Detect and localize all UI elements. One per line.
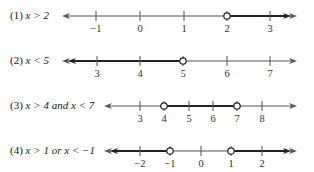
row-1-tick-label: 1 — [181, 23, 186, 34]
row-3-open-circle-icon — [161, 103, 167, 109]
row-3-tick-label: 6 — [210, 113, 215, 124]
row-1-open-circle-icon — [224, 13, 230, 19]
row-1-tick-label: −1 — [90, 23, 101, 34]
row-3-tick-label: 3 — [137, 113, 142, 124]
row-4-open-circle-icon — [167, 148, 173, 154]
row-2-open-circle-icon — [180, 58, 186, 64]
row-4-tick-label: −1 — [164, 158, 175, 169]
number-lines-canvas: −1012334567345678−2−1012 — [0, 0, 314, 172]
row-1-tick-label: 0 — [137, 23, 142, 34]
row-2-tick-label: 4 — [137, 68, 143, 79]
row-3-open-circle-icon — [234, 103, 240, 109]
row-3-tick-label: 5 — [186, 113, 191, 124]
row-4-tick-label: 2 — [259, 158, 264, 169]
row-1-tick-label: 2 — [224, 23, 229, 34]
row-2-tick-label: 6 — [224, 68, 229, 79]
row-3-tick-label: 4 — [161, 113, 167, 124]
row-4-tick-label: −2 — [134, 158, 145, 169]
row-4-tick-label: 0 — [198, 158, 203, 169]
row-2-tick-label: 7 — [267, 68, 272, 79]
row-2-tick-label: 3 — [94, 68, 99, 79]
row-1-tick-label: 3 — [267, 23, 272, 34]
row-3-tick-label: 8 — [259, 113, 264, 124]
row-4-open-circle-icon — [228, 148, 234, 154]
row-4-tick-label: 1 — [228, 158, 233, 169]
row-3-tick-label: 7 — [234, 113, 239, 124]
row-2-tick-label: 5 — [180, 68, 185, 79]
